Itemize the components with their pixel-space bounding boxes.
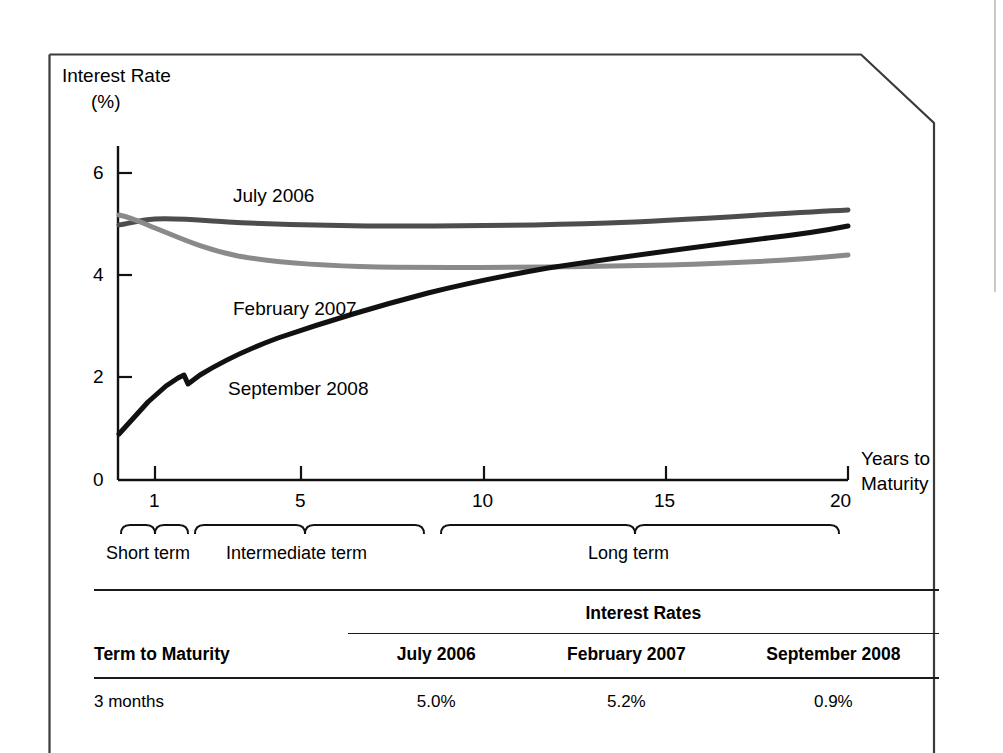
exhibit-box: Interest Rate (%) Years to Maturity 6 4 … — [48, 53, 981, 753]
table-group-header-row: Interest Rates — [94, 597, 939, 632]
series-label-february-2007: February 2007 — [233, 298, 357, 320]
chart-y-ticks — [118, 173, 132, 377]
interest-rates-table: Interest Rates Term to Maturity July 200… — [94, 589, 939, 718]
cell-september-2008: 0.9% — [728, 678, 939, 718]
table-col-term: Term to Maturity — [94, 634, 348, 676]
table-row: 3 months 5.0% 5.2% 0.9% — [94, 678, 939, 718]
x-tick-label-15: 15 — [654, 490, 675, 512]
series-line-july-2006 — [119, 210, 848, 226]
page-edge-rule — [994, 0, 996, 292]
bracket-label-long-term: Long term — [588, 543, 669, 564]
cell-term: 3 months — [94, 678, 348, 718]
yield-curve-chart: Interest Rate (%) Years to Maturity 6 4 … — [48, 53, 981, 593]
table-col-february-2007: February 2007 — [525, 634, 728, 676]
bracket-label-short-term: Short term — [106, 543, 190, 564]
x-tick-label-20: 20 — [830, 490, 851, 512]
table-header-row: Term to Maturity July 2006 February 2007… — [94, 634, 939, 676]
series-label-september-2008: September 2008 — [228, 378, 369, 400]
x-tick-label-1: 1 — [149, 490, 160, 512]
bracket-label-intermediate-term: Intermediate term — [226, 543, 367, 564]
series-label-july-2006: July 2006 — [233, 185, 314, 207]
y-tick-label-6: 6 — [93, 162, 104, 184]
cell-july-2006: 5.0% — [348, 678, 525, 718]
table-col-july-2006: July 2006 — [348, 634, 525, 676]
chart-svg — [48, 53, 981, 593]
cell-february-2007: 5.2% — [525, 678, 728, 718]
x-tick-label-10: 10 — [472, 490, 493, 512]
x-axis-title-line1: Years to — [861, 448, 930, 470]
y-tick-label-4: 4 — [93, 264, 104, 286]
series-line-september-2008 — [119, 226, 848, 434]
x-tick-label-5: 5 — [295, 490, 306, 512]
y-tick-label-2: 2 — [93, 366, 104, 388]
y-axis-title-line1: Interest Rate — [62, 65, 171, 87]
y-axis-title-line2: (%) — [91, 91, 121, 113]
table-group-header: Interest Rates — [348, 597, 940, 632]
x-axis-title-line2: Maturity — [861, 473, 929, 495]
table-top-rule — [94, 590, 939, 597]
term-brackets — [121, 525, 839, 534]
chart-x-ticks — [155, 466, 848, 480]
table-col-september-2008: September 2008 — [728, 634, 939, 676]
y-tick-label-0: 0 — [93, 469, 104, 491]
chart-axes — [118, 146, 848, 480]
